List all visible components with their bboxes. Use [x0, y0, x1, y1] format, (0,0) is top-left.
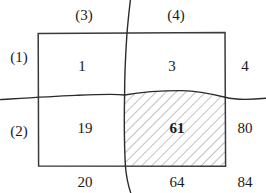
diagram-canvas	[0, 0, 266, 193]
hatched-region	[118, 86, 233, 172]
contingency-diagram: (1) (2) (3) (4) 1 3 4 19 61 80 20 64 84	[0, 0, 266, 193]
